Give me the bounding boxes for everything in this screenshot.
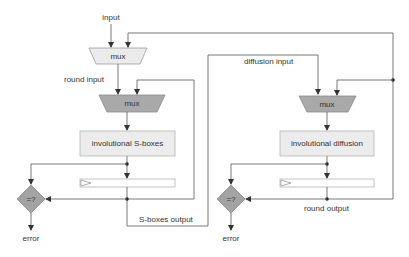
sbox-compare: =?	[17, 185, 45, 213]
input-label: input	[102, 13, 120, 22]
diffusion-register	[280, 179, 374, 187]
sbox-register	[80, 179, 175, 187]
sbox-mux-label: mux	[124, 99, 139, 108]
diffusion-error-label: error	[223, 234, 240, 243]
sboxes-block: involutional S-boxes	[80, 131, 175, 156]
round-input-label: round input	[64, 75, 105, 84]
diffusion-mux: mux	[299, 96, 356, 112]
diffusion-loopback-wire	[337, 80, 393, 95]
sboxes-output-label: S-boxes output	[139, 215, 194, 224]
sbox-mux: mux	[99, 95, 165, 112]
sbox-compare-label: =?	[26, 195, 36, 204]
sboxes-block-label: involutional S-boxes	[92, 139, 164, 148]
involutional-cipher-diagram: input mux round input mux involutional S…	[0, 0, 409, 257]
diffusion-compare: =?	[217, 185, 245, 213]
round-output-label: round output	[304, 204, 350, 213]
diffusion-block-label: involutional diffusion	[291, 139, 363, 148]
diffusion-mux-label: mux	[319, 100, 334, 109]
diffusion-input-label: diffusion input	[244, 57, 294, 66]
diffusion-block: involutional diffusion	[280, 131, 374, 156]
diffusion-compare-label: =?	[226, 195, 236, 204]
input-mux-label: mux	[110, 52, 125, 61]
diffusion-register-out-wire	[327, 187, 393, 199]
input-mux: mux	[89, 48, 147, 64]
sbox-error-label: error	[23, 234, 40, 243]
